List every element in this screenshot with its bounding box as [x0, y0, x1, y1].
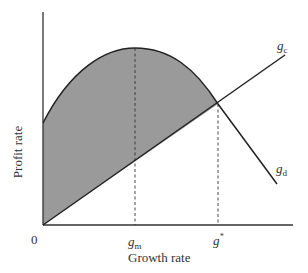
gd-label: gd — [276, 161, 287, 178]
gc-label: gc — [277, 38, 288, 55]
gstar-tick-label: g* — [213, 232, 224, 249]
origin-label: 0 — [31, 232, 38, 248]
x-axis-title: Growth rate — [128, 250, 190, 266]
shaded-surplus-region — [43, 48, 218, 225]
y-axis-title: Profit rate — [10, 112, 26, 192]
gm-tick-label: gm — [128, 234, 142, 251]
chart-canvas — [0, 0, 308, 273]
